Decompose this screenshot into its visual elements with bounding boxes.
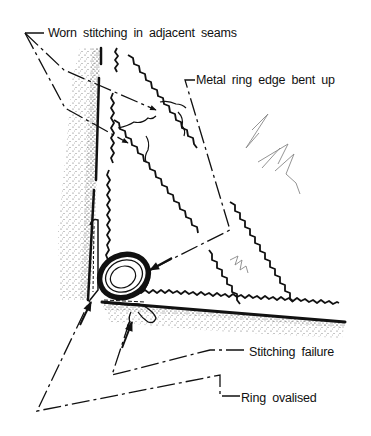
worn-stitching-cracks	[118, 101, 186, 162]
label-metal-ring-edge: Metal ring edge bent up	[196, 73, 335, 87]
illustration	[0, 0, 371, 436]
ring-cringle	[92, 246, 155, 305]
pencil-scribbles	[230, 114, 300, 273]
label-worn-stitching: Worn stitching in adjacent seams	[48, 26, 237, 40]
label-stitching-failure: Stitching failure	[249, 345, 334, 359]
label-ring-ovalised: Ring ovalised	[241, 391, 316, 405]
leader-lines	[25, 33, 244, 411]
